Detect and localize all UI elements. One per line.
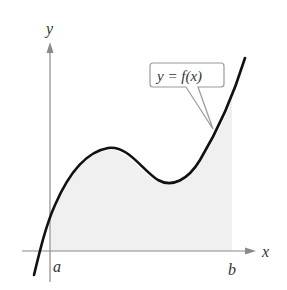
callout-label: y = f(x) xyxy=(155,68,202,85)
y-axis-label: y xyxy=(44,20,54,38)
interval-start-label: a xyxy=(53,258,61,275)
area-under-curve-figure: y = f(x) y x a b xyxy=(0,0,287,290)
x-axis-label: x xyxy=(261,243,269,260)
interval-end-label: b xyxy=(228,261,236,278)
shaded-area-region xyxy=(51,98,232,251)
x-axis-arrowhead xyxy=(245,248,256,255)
y-axis-arrowhead xyxy=(47,42,54,53)
